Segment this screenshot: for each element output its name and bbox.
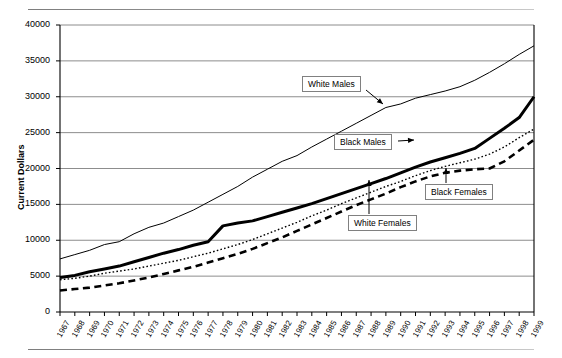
chart-canvas: [0, 0, 562, 358]
annotation-black-males: Black Males: [334, 134, 392, 150]
series-line-black-females: [60, 140, 534, 291]
annotation-black-females: Black Females: [425, 184, 493, 200]
annotation-black-males-arrowhead: [408, 138, 414, 143]
annotation-white-females: White Females: [348, 215, 417, 231]
annotation-white-males: White Males: [302, 76, 361, 92]
